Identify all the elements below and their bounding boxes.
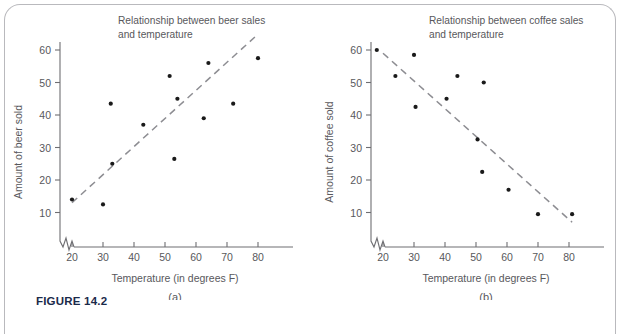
data-point <box>475 137 479 141</box>
x-axis-label: Temperature (in degrees F) <box>111 272 238 284</box>
data-point <box>482 80 486 84</box>
x-axis-tick-label: 70 <box>221 251 233 263</box>
data-point <box>206 61 210 65</box>
x-axis-tick-label: 40 <box>128 251 140 263</box>
data-point <box>570 212 574 216</box>
panel-sublabel: (a) <box>168 291 181 300</box>
data-point <box>70 197 74 201</box>
data-point <box>109 102 113 106</box>
data-point <box>172 157 176 161</box>
x-axis-tick-label: 20 <box>377 251 389 263</box>
chart-title-line-2: and temperature <box>429 29 504 40</box>
data-point <box>256 56 260 60</box>
data-point <box>375 48 379 52</box>
y-axis-tick-label: 30 <box>39 142 51 154</box>
data-point <box>101 202 105 206</box>
data-point <box>231 102 235 106</box>
data-point <box>393 74 397 78</box>
scatter-plot-coffee-sales: Relationship between coffee salesand tem… <box>311 0 622 300</box>
y-axis-tick-label: 40 <box>350 109 362 121</box>
data-point <box>168 74 172 78</box>
data-point <box>412 53 416 57</box>
x-axis-tick-label: 30 <box>408 251 420 263</box>
data-point <box>110 162 114 166</box>
x-axis-tick-label: 40 <box>439 251 451 263</box>
y-axis-tick-label: 60 <box>350 44 362 56</box>
x-axis-tick-label: 60 <box>501 251 513 263</box>
y-axis-tick-label: 10 <box>350 207 362 219</box>
data-point <box>175 97 179 101</box>
data-point <box>141 123 145 127</box>
panel-sublabel: (b) <box>479 291 492 300</box>
y-axis-tick-label: 60 <box>39 44 51 56</box>
x-axis-tick-label: 70 <box>532 251 544 263</box>
data-point <box>444 97 448 101</box>
x-axis-tick-label: 20 <box>66 251 78 263</box>
y-axis-tick-label: 10 <box>39 207 51 219</box>
y-axis-tick-label: 50 <box>39 77 51 89</box>
figure-caption: FIGURE 14.2 <box>36 295 107 307</box>
chart-title-line-2: and temperature <box>118 29 193 40</box>
y-axis-tick-label: 20 <box>350 174 362 186</box>
x-axis-label: Temperature (in degrees F) <box>422 272 549 284</box>
chart-panel-beer-sales: Relationship between beer salesand tempe… <box>0 0 311 300</box>
data-point <box>480 170 484 174</box>
y-axis-label: Amount of coffee sold <box>323 101 335 203</box>
x-axis-tick-label: 50 <box>470 251 482 263</box>
y-axis-tick-label: 20 <box>39 174 51 186</box>
trend-line <box>72 37 255 203</box>
chart-panel-coffee-sales: Relationship between coffee salesand tem… <box>311 0 622 300</box>
x-axis-tick-label: 60 <box>190 251 202 263</box>
y-axis-tick-label: 30 <box>350 142 362 154</box>
y-axis-tick-label: 50 <box>350 77 362 89</box>
chart-title-line-1: Relationship between beer sales <box>118 15 265 26</box>
y-axis-tick-label: 40 <box>39 109 51 121</box>
data-point <box>506 188 510 192</box>
x-axis-tick-label: 50 <box>159 251 171 263</box>
data-point <box>455 74 459 78</box>
scatter-plot-beer-sales: Relationship between beer salesand tempe… <box>0 0 311 300</box>
x-axis-tick-label: 30 <box>97 251 109 263</box>
chart-title-line-1: Relationship between coffee sales <box>429 15 583 26</box>
x-axis-tick-label: 80 <box>252 251 264 263</box>
y-axis-label: Amount of beer sold <box>12 105 24 199</box>
data-point <box>413 105 417 109</box>
x-axis-tick-label: 80 <box>563 251 575 263</box>
data-point <box>536 212 540 216</box>
data-point <box>202 116 206 120</box>
